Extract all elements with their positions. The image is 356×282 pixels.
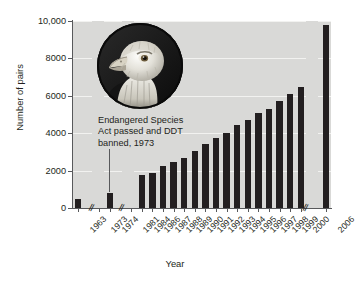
bar-1994 [234,125,240,208]
bar-1986 [149,173,155,208]
x-tick-mark-1992 [216,209,217,212]
annotation-line-2: Act passed and DDT [98,126,218,137]
bar-1974 [107,193,113,208]
x-tick-mark-1997 [269,209,270,212]
bar-1987 [160,166,166,208]
bar-1963 [75,199,81,208]
axis-break-marker-1: // [88,203,94,214]
x-axis-title: Year [0,258,350,269]
bar-2000 [298,87,304,208]
y-tick-label-2000: 2000 [4,166,66,176]
annotation-line-1: Endangered Species [98,115,218,126]
x-tick-mark-1986 [152,209,153,212]
bar-1993 [223,133,229,208]
bar-1999 [287,94,293,208]
x-tick-mark-1987 [163,209,164,212]
bar-1989 [181,158,187,208]
bar-1991 [202,144,208,208]
x-tick-mark-1990 [195,209,196,212]
bar-1998 [276,101,282,208]
x-tick-mark-1963 [78,209,79,212]
bar-1996 [255,113,261,208]
y-tick-label-0: 0 [4,203,66,213]
bar-2006 [323,25,329,208]
x-tick-mark-1988 [174,209,175,212]
x-tick-mark-1998 [280,209,281,212]
annotation-line-3: banned, 1973 [98,138,218,149]
y-axis-tick-labels: 10,000 8000 6000 4000 2000 0 [0,0,66,282]
axis-break-marker-3: // [302,203,308,214]
x-tick-mark-1993 [227,209,228,212]
bald-eagle-photo [97,23,183,109]
x-tick-label-1963: 1963 [88,214,109,235]
y-axis-line [72,20,73,209]
y-tick-label-10000: 10,000 [4,16,66,26]
axis-break-marker-2: // [118,203,124,214]
x-tick-mark-1981 [131,209,132,212]
x-tick-mark-1973 [99,209,100,212]
axis-break-gap-3 [306,21,318,208]
x-tick-mark-1999 [290,209,291,212]
plot-area: Endangered Species Act passed and DDT ba… [73,21,331,208]
x-tick-label-2006: 2006 [335,214,356,235]
bar-1997 [266,109,272,208]
bar-1984 [139,175,145,208]
x-tick-mark-1995 [248,209,249,212]
x-tick-mark-1984 [142,209,143,212]
x-tick-mark-1991 [205,209,206,212]
y-axis-title: Number of pairs [14,48,25,148]
bar-1995 [245,120,251,208]
x-tick-mark-2006 [326,209,327,212]
x-tick-mark-1989 [184,209,185,212]
bar-1990 [192,151,198,208]
x-tick-mark-1996 [258,209,259,212]
x-tick-mark-1974 [110,209,111,212]
bar-1988 [170,162,176,208]
x-tick-mark-1994 [237,209,238,212]
annotation-endangered-species-act: Endangered Species Act passed and DDT ba… [98,115,218,149]
annotation-leader-line [109,149,110,192]
